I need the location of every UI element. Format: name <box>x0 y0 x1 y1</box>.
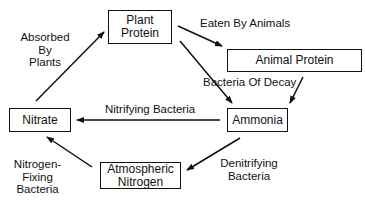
label-absorbed-by-plants: Absorbed By Plants <box>14 31 76 69</box>
label-nitrifying-bacteria: Nitrifying Bacteria <box>105 103 215 116</box>
label-nitrogen-fixing-bacteria: Nitrogen- Fixing Bacteria <box>10 158 65 196</box>
label-bacteria-of-decay: Bacteria Of Decay <box>203 76 323 89</box>
node-ammonia: Ammonia <box>227 108 288 132</box>
label-denitrifying-bacteria: Denitrifying Bacteria <box>216 157 282 182</box>
node-nitrate: Nitrate <box>9 108 71 132</box>
arrow-plant-decay <box>180 41 232 103</box>
node-animal-protein: Animal Protein <box>227 49 362 72</box>
node-atmospheric-nitrogen: Atmospheric Nitrogen <box>100 162 181 189</box>
label-eaten-by-animals: Eaten By Animals <box>200 17 320 30</box>
node-plant-protein: Plant Protein <box>108 10 172 44</box>
